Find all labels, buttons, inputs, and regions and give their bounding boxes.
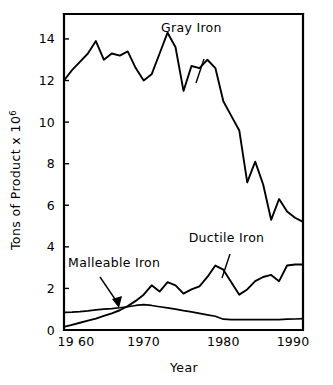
annotation-malleable-iron: Malleable Iron <box>68 255 160 270</box>
chart-figure: 02468101214 19 60197019801990 Gray IronD… <box>0 0 333 385</box>
annotation-gray-iron: Gray Iron <box>161 20 222 35</box>
gray-iron-leader-line <box>196 59 204 83</box>
y-tick-label: 4 <box>47 239 55 254</box>
y-axis-title-exponent: 6 <box>8 110 18 116</box>
y-axis-title-text: Tons of Product x 10 <box>8 116 23 251</box>
x-tick-label: 1980 <box>207 334 240 349</box>
annotation-ductile-iron: Ductile Iron <box>189 230 265 245</box>
y-axis-title-group: Tons of Product x 106 <box>8 110 23 251</box>
x-tick-label: 19 60 <box>58 334 95 349</box>
x-tick-label: 1970 <box>127 334 160 349</box>
y-tick-label: 12 <box>39 73 55 88</box>
x-axis-title: Year <box>169 360 199 375</box>
y-tick-label: 14 <box>39 31 55 46</box>
y-tick-label: 6 <box>47 198 55 213</box>
y-axis-tick-labels: 02468101214 <box>39 31 55 337</box>
series-annotations: Gray IronDuctile IronMalleable Iron <box>68 20 264 270</box>
malleable-iron-leader-line <box>100 277 117 302</box>
y-tick-label: 2 <box>47 281 55 296</box>
x-axis-tick-labels: 19 60197019801990 <box>58 334 310 349</box>
series-line-ductile-iron <box>64 265 303 327</box>
plot-frame <box>64 14 303 330</box>
iron-production-line-chart: 02468101214 19 60197019801990 Gray IronD… <box>0 0 333 385</box>
y-tick-label: 8 <box>47 156 55 171</box>
series-line-gray-iron <box>64 33 303 222</box>
y-tick-label: 0 <box>47 323 55 338</box>
x-tick-label: 1990 <box>277 334 310 349</box>
y-tick-label: 10 <box>39 115 55 130</box>
y-axis-title: Tons of Product x 106 <box>8 110 23 251</box>
